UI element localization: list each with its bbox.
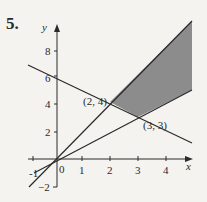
x-tick-label-1: 1 [79, 164, 85, 176]
y-tick-label-2: 2 [45, 126, 51, 138]
point-label-2-4: (2, 4) [83, 95, 107, 108]
graph: -1 0 1 2 3 4 8 6 4 2 −2 y x (2, 4) (3, 3… [0, 0, 207, 202]
x-tick-label-0: 0 [59, 163, 65, 175]
x-tick-label-3: 3 [135, 164, 141, 176]
y-tick-label-neg2: −2 [38, 181, 50, 193]
shaded-region [110, 21, 192, 117]
point-label-3-3: (3, 3) [143, 119, 167, 132]
y-tick-label-6: 6 [45, 72, 51, 84]
x-tick-label-neg1: -1 [29, 167, 38, 179]
y-axis-label: y [41, 21, 47, 33]
x-tick-label-2: 2 [107, 164, 113, 176]
y-tick-label-8: 8 [45, 45, 51, 57]
y-axis-arrow-icon [54, 24, 60, 32]
y-tick-label-4: 4 [45, 98, 51, 110]
x-tick-label-4: 4 [163, 164, 169, 176]
x-axis-label: x [185, 160, 191, 172]
